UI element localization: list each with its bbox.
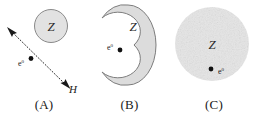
panel-b-caption: (B) [88,97,171,113]
physics-figure: Z e0 H (A) Z e0 (B) [0,0,257,123]
electron-dot [118,48,123,53]
nucleus-label: Z [208,37,216,52]
nucleus-label: Z [47,19,55,34]
electron-label: e0 [107,43,114,53]
nucleus-label: Z [129,19,137,34]
electron-dot [29,56,34,61]
field-label-h: H [68,83,78,95]
panel-a: Z e0 H (A) [0,0,88,123]
panel-c: Z e0 (C) [171,0,257,123]
electron-label: e0 [18,59,25,69]
electron-dot [209,67,214,72]
panel-a-caption: (A) [0,97,88,113]
panel-b: Z e0 (B) [88,0,171,123]
panel-c-caption: (C) [171,97,257,113]
